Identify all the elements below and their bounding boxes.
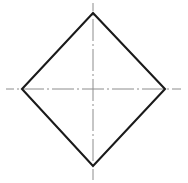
drawing-canvas	[0, 0, 188, 183]
technical-drawing-svg	[0, 0, 188, 183]
